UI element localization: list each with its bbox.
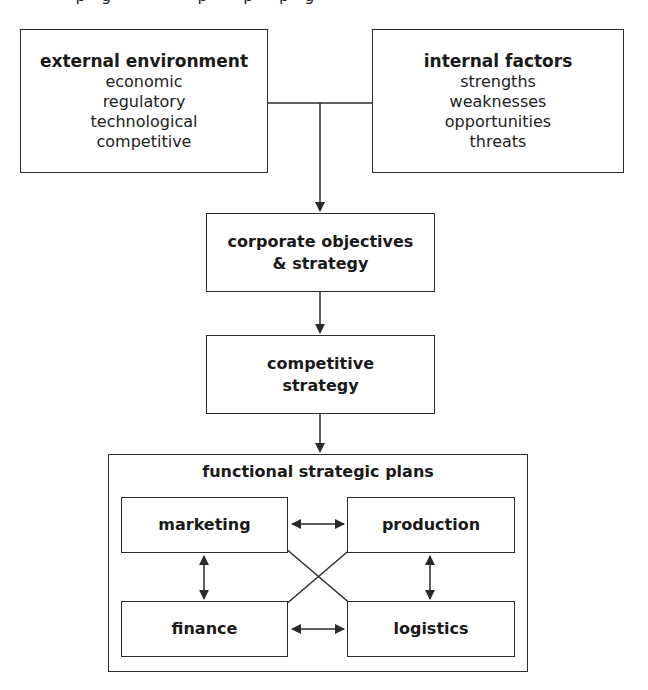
cut-off-top-text: · · · p · g · · · · · · · · p · · · p · … [0,0,648,6]
internal-item-opportunities: opportunities [445,112,551,132]
finance-box: finance [121,601,288,657]
corporate-objectives-box: corporate objectives & strategy [206,213,435,292]
external-item-regulatory: regulatory [103,92,186,112]
production-box: production [347,497,515,553]
functional-plans-title: functional strategic plans [108,462,528,481]
corporate-line-1: corporate objectives [228,231,414,253]
external-environment-title: external environment [40,50,248,72]
internal-factors-box: internal factors strengths weaknesses op… [372,29,624,173]
external-item-technological: technological [91,112,198,132]
competitive-strategy-box: competitive strategy [206,335,435,414]
external-item-competitive: competitive [97,132,192,152]
internal-factors-title: internal factors [424,50,573,72]
finance-label: finance [172,618,238,640]
logistics-label: logistics [393,618,468,640]
external-item-economic: economic [105,72,182,92]
competitive-line-1: competitive [267,353,374,375]
marketing-label: marketing [158,514,250,536]
logistics-box: logistics [347,601,515,657]
internal-item-weaknesses: weaknesses [450,92,547,112]
external-environment-box: external environment economic regulatory… [20,29,268,173]
marketing-box: marketing [121,497,288,553]
production-label: production [382,514,480,536]
internal-item-strengths: strengths [460,72,536,92]
corporate-line-2: & strategy [273,253,369,275]
internal-item-threats: threats [470,132,527,152]
competitive-line-2: strategy [282,375,358,397]
